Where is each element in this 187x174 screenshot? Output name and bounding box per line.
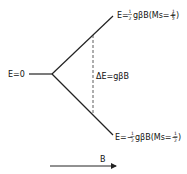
svg-text:1: 1 bbox=[172, 9, 175, 14]
zeeman-diagram: E=0 ΔE=gβB E= 1 2 gβB(Ms=+ 1 2 ) E=− 1 2… bbox=[0, 0, 187, 174]
svg-text:2: 2 bbox=[131, 138, 134, 143]
upper-level-line bbox=[52, 16, 113, 74]
svg-text:gβB(Ms=+: gβB(Ms=+ bbox=[133, 11, 176, 20]
svg-text:): ) bbox=[176, 11, 179, 20]
svg-text:gβB(Ms=−: gβB(Ms=− bbox=[135, 133, 178, 142]
svg-text:2: 2 bbox=[172, 16, 175, 21]
svg-text:2: 2 bbox=[129, 16, 132, 21]
energy-gap-label: ΔE=gβB bbox=[96, 72, 129, 81]
zero-level-label: E=0 bbox=[8, 70, 25, 79]
lower-level-label: E=− 1 2 gβB(Ms=− 1 2 ) bbox=[115, 131, 181, 143]
upper-level-label: E= 1 2 gβB(Ms=+ 1 2 ) bbox=[117, 9, 179, 21]
svg-text:): ) bbox=[178, 133, 181, 142]
lower-level-line bbox=[52, 74, 113, 135]
svg-text:2: 2 bbox=[174, 138, 177, 143]
svg-text:1: 1 bbox=[174, 131, 177, 136]
svg-text:1: 1 bbox=[129, 9, 132, 14]
svg-text:E=: E= bbox=[117, 11, 129, 20]
svg-text:1: 1 bbox=[131, 131, 134, 136]
field-axis-label: B bbox=[100, 155, 106, 164]
